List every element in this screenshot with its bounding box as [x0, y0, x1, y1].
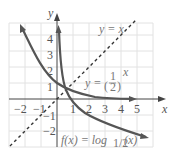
y-tick-labels: 4 3 2 1 −1 −2	[43, 32, 56, 138]
log-curve-right-arrow-icon	[140, 133, 149, 139]
svg-text:3: 3	[102, 102, 108, 116]
svg-text:y =: y =	[84, 76, 101, 90]
annotation-exponential: y = ( 1 2 ) x	[84, 65, 129, 94]
grid	[9, 23, 153, 147]
svg-text:2: 2	[47, 64, 53, 78]
svg-text:x: x	[122, 65, 129, 79]
svg-text:3: 3	[47, 48, 53, 62]
svg-text:1: 1	[70, 102, 76, 116]
y-axis-arrow-icon	[54, 13, 60, 21]
svg-text:f(x) = log: f(x) = log	[61, 133, 107, 147]
x-axis-label: x	[161, 102, 168, 116]
svg-text:4: 4	[118, 102, 124, 116]
svg-text:1: 1	[47, 80, 53, 94]
log-curve-up-arrow-icon	[56, 25, 62, 33]
svg-text:(: (	[104, 79, 108, 93]
svg-text:−2: −2	[43, 124, 56, 138]
annotation-y-equals-x: y = x	[98, 22, 124, 36]
svg-text:−2: −2	[14, 102, 27, 116]
svg-text:−1: −1	[43, 109, 56, 123]
svg-text:): )	[117, 79, 121, 93]
y-axis-label: y	[47, 6, 54, 20]
svg-text:5: 5	[134, 102, 140, 116]
svg-text:4: 4	[47, 32, 53, 46]
svg-text:(x): (x)	[124, 133, 137, 147]
svg-text:2: 2	[86, 102, 92, 116]
svg-text:2: 2	[110, 80, 116, 94]
x-tick-labels: −2 −1 1 2 3 4 5	[14, 102, 140, 116]
chart: −2 −1 1 2 3 4 5 4 3 2 1 −1 −2 y x y = x …	[0, 0, 177, 153]
